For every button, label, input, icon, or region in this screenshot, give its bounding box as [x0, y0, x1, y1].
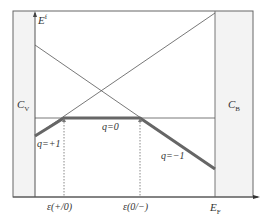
diagram-canvas [0, 0, 261, 219]
lowest-energy-envelope [35, 118, 215, 169]
y-axis-label: Ef [38, 14, 47, 26]
valence-band-label-sub: V [24, 105, 29, 113]
x-axis-arrow-icon [253, 195, 260, 199]
y-axis-label-text: E [38, 14, 45, 26]
charge-state-q-plus1-label: q=+1 [37, 139, 61, 149]
transition-level-zero-minus-label: ε(0/−) [123, 202, 148, 212]
charge-state-q-minus1-label: q=−1 [161, 151, 185, 161]
x-axis-label-text: E [210, 201, 217, 213]
y-axis-label-sup: f [45, 13, 47, 21]
x-axis-label-sub: F [217, 208, 221, 216]
valence-band-label: CV [17, 99, 29, 113]
conduction-band-label-sub: B [235, 105, 240, 113]
conduction-band-label: CB [228, 99, 240, 113]
transition-level-plus-zero-label: ε(+/0) [47, 202, 72, 212]
charge-state-q-0-label: q=0 [102, 122, 119, 132]
x-axis-label: EF [210, 202, 221, 216]
